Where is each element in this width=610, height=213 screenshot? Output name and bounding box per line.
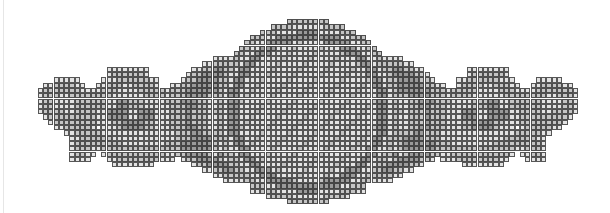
stitch-cell (149, 162, 154, 167)
stitch-cell (170, 157, 175, 162)
stitch-cell (85, 157, 90, 162)
stitch-cell (504, 157, 509, 162)
stitch-cell (324, 199, 329, 204)
stitch-cell (361, 189, 366, 194)
stitch-cell (398, 173, 403, 178)
stitch-cell (546, 130, 551, 135)
stitch-cell (409, 167, 414, 172)
stitch-cell (573, 109, 578, 114)
stitch-cell (419, 162, 424, 167)
page-edge-line (3, 0, 4, 213)
stitch-cell (91, 152, 96, 157)
stitch-cell (430, 157, 435, 162)
stitch-cell (557, 125, 562, 130)
stitch-cell (562, 120, 567, 125)
stitch-cell (345, 194, 350, 199)
stitch-cell (387, 178, 392, 183)
stitch-cell (509, 152, 514, 157)
stitch-cell (541, 157, 546, 162)
stitch-cell (499, 162, 504, 167)
stitch-cell (568, 114, 573, 119)
